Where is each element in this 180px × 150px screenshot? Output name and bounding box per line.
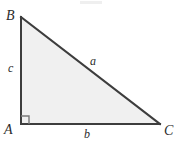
vertex-label-a: A: [4, 123, 13, 137]
triangle-drawing: [0, 0, 180, 150]
scan-artifact: [80, 1, 102, 4]
side-label-c: c: [8, 62, 13, 74]
side-label-b: b: [84, 128, 90, 140]
side-label-a: a: [90, 55, 96, 67]
triangle-figure: B A C c a b: [0, 0, 180, 150]
vertex-label-b: B: [6, 9, 15, 23]
vertex-label-c: C: [164, 124, 173, 138]
